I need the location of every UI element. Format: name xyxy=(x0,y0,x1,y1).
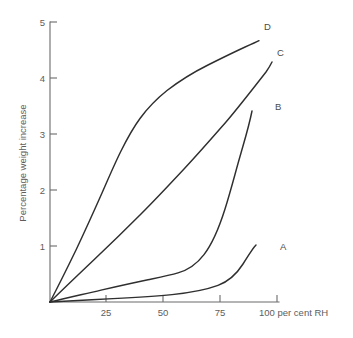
curve-c xyxy=(50,62,272,302)
y-tick-label-2: 2 xyxy=(40,185,45,196)
y-tick-label-1: 1 xyxy=(40,241,45,252)
x-axis-title: 100 per cent RH xyxy=(259,307,328,318)
chart-page: 1 2 3 4 5 25 50 75 100 per cent RH Perce… xyxy=(0,0,353,338)
x-tick-label-25: 25 xyxy=(101,307,112,318)
curve-label-c: C xyxy=(277,47,284,58)
chart-axes xyxy=(50,22,279,302)
y-tick-label-5: 5 xyxy=(40,17,45,28)
y-axis-title: Percentage weight increase xyxy=(17,104,28,221)
y-tick-label-3: 3 xyxy=(40,129,45,140)
curve-label-d: D xyxy=(264,21,271,32)
x-tick-label-75: 75 xyxy=(215,307,226,318)
curve-a xyxy=(50,245,256,302)
y-tick-label-4: 4 xyxy=(40,73,45,84)
y-axis-ticks: 1 2 3 4 5 xyxy=(40,17,57,252)
x-tick-label-50: 50 xyxy=(158,307,169,318)
y-axis-title-group: Percentage weight increase xyxy=(17,104,28,221)
curve-d xyxy=(50,41,259,302)
chart-canvas: 1 2 3 4 5 25 50 75 100 per cent RH Perce… xyxy=(0,0,353,338)
x-axis-ticks: 25 50 75 100 per cent RH xyxy=(101,295,329,318)
curve-label-b: B xyxy=(275,101,281,112)
curve-label-a: A xyxy=(280,241,287,252)
curve-labels-group: D C B A xyxy=(264,21,287,252)
chart-series-group xyxy=(50,41,272,302)
